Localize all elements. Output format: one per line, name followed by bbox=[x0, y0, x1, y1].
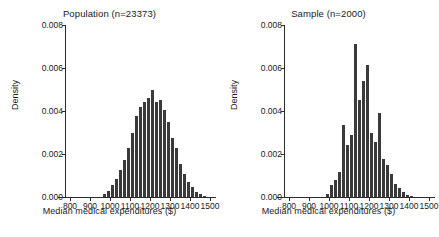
bars-population bbox=[66, 25, 214, 197]
y-tick-label: 0.006 bbox=[261, 63, 282, 73]
x-tick-mark bbox=[70, 198, 71, 201]
y-tick-mark bbox=[281, 68, 285, 69]
y-tick-label: 0.000 bbox=[42, 192, 63, 202]
y-tick-mark bbox=[62, 111, 66, 112]
x-ticks-population: 800900100011001200130014001500 bbox=[66, 198, 214, 199]
y-tick-mark bbox=[62, 154, 66, 155]
bars-sample bbox=[285, 25, 433, 197]
y-axis-label-text: Density bbox=[229, 80, 239, 110]
x-tick-mark bbox=[409, 198, 410, 201]
histogram-bar bbox=[409, 196, 413, 197]
x-axis-label-population: Median medical expenditures ($) bbox=[0, 206, 219, 216]
y-axis-label-text: Density bbox=[10, 80, 20, 110]
x-tick-mark bbox=[349, 198, 350, 201]
plot-area-population bbox=[66, 25, 214, 197]
x-tick-mark bbox=[369, 198, 370, 201]
x-tick-mark bbox=[210, 198, 211, 201]
x-ticks-sample: 800900100011001200130014001500 bbox=[285, 198, 433, 199]
y-axis-label-sample: Density bbox=[229, 83, 239, 95]
y-tick-label: 0.008 bbox=[261, 20, 282, 30]
y-axis-label-population: Density bbox=[10, 83, 20, 95]
histogram-figure: Population (n=23373) Density 0.0000.0020… bbox=[0, 0, 439, 237]
x-tick-mark bbox=[110, 198, 111, 201]
y-tick-mark bbox=[62, 68, 66, 69]
x-tick-mark bbox=[130, 198, 131, 201]
panel-title-population: Population (n=23373) bbox=[0, 8, 219, 19]
panel-title-sample: Sample (n=2000) bbox=[219, 8, 438, 19]
panel-sample: Sample (n=2000) Density 0.0000.0020.0040… bbox=[219, 0, 438, 237]
y-tick-label: 0.006 bbox=[42, 63, 63, 73]
y-tick-label: 0.004 bbox=[261, 106, 282, 116]
x-tick-mark bbox=[190, 198, 191, 201]
x-tick-mark bbox=[289, 198, 290, 201]
histogram-bar bbox=[202, 196, 206, 197]
x-tick-mark bbox=[389, 198, 390, 201]
x-axis-label-sample: Median medical expenditures ($) bbox=[219, 206, 438, 216]
plot-area-sample bbox=[285, 25, 433, 197]
y-tick-label: 0.002 bbox=[42, 149, 63, 159]
x-tick-mark bbox=[150, 198, 151, 201]
y-tick-label: 0.004 bbox=[42, 106, 63, 116]
x-tick-mark bbox=[90, 198, 91, 201]
x-tick-mark bbox=[429, 198, 430, 201]
y-tick-label: 0.000 bbox=[261, 192, 282, 202]
y-tick-mark bbox=[62, 25, 66, 26]
y-tick-label: 0.008 bbox=[42, 20, 63, 30]
y-tick-mark bbox=[281, 25, 285, 26]
y-tick-mark bbox=[281, 154, 285, 155]
y-tick-mark bbox=[281, 111, 285, 112]
y-tick-label: 0.002 bbox=[261, 149, 282, 159]
x-tick-mark bbox=[309, 198, 310, 201]
panel-population: Population (n=23373) Density 0.0000.0020… bbox=[0, 0, 219, 237]
x-tick-mark bbox=[329, 198, 330, 201]
x-tick-mark bbox=[170, 198, 171, 201]
